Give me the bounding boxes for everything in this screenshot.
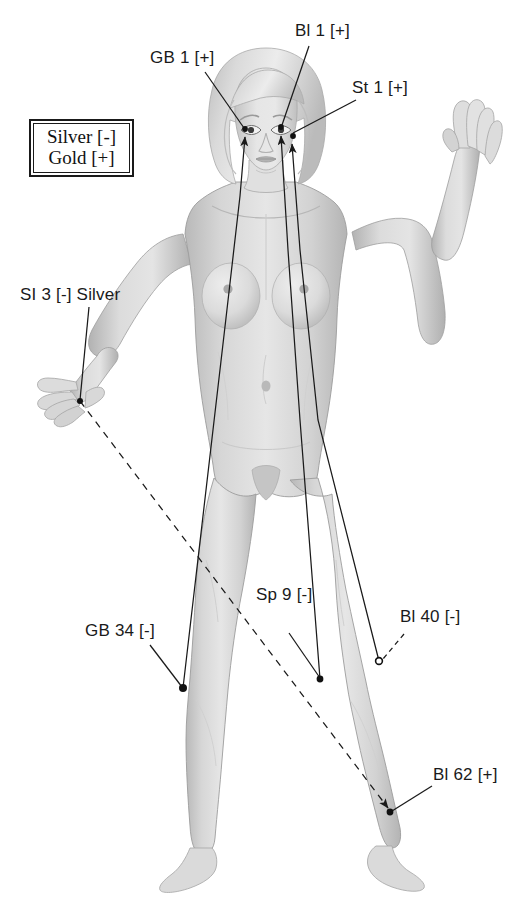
label-bl62: Bl 62 [+] bbox=[433, 765, 498, 785]
label-gb1: GB 1 [+] bbox=[150, 48, 214, 68]
acupuncture-chart-page: Silver [-] Gold [+] GB 1 [+] Bl 1 [+] St… bbox=[0, 0, 511, 899]
extended-arm bbox=[37, 234, 192, 427]
head bbox=[208, 48, 325, 184]
breast-left bbox=[202, 263, 260, 329]
leg-right bbox=[290, 478, 401, 848]
label-bl1: Bl 1 [+] bbox=[295, 21, 350, 41]
legend-gold-line: Gold [+] bbox=[48, 148, 114, 169]
label-sp9: Sp 9 [-] bbox=[256, 585, 312, 605]
foot-left bbox=[160, 848, 217, 892]
leg-left bbox=[186, 478, 256, 854]
label-gb34: GB 34 [-] bbox=[85, 621, 155, 641]
label-st1: St 1 [+] bbox=[352, 78, 408, 98]
raised-arm bbox=[352, 100, 502, 345]
label-si3: SI 3 [-] Silver bbox=[20, 285, 120, 305]
needle-metal-legend: Silver [-] Gold [+] bbox=[29, 119, 134, 177]
label-bl40: Bl 40 [-] bbox=[400, 607, 460, 627]
legend-silver-line: Silver [-] bbox=[47, 127, 116, 148]
breast-right bbox=[272, 263, 330, 329]
foot-right bbox=[367, 846, 424, 891]
legend-inner-frame: Silver [-] Gold [+] bbox=[33, 123, 130, 173]
